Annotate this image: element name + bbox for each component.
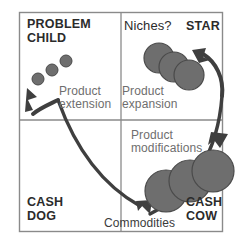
product-extension-arrowhead — [25, 88, 37, 112]
quadrant-label-niches: Niches? — [124, 19, 172, 33]
product-extension-arrow-shaft — [33, 100, 58, 114]
quadrant-label-star: STAR — [186, 20, 220, 34]
quadrant-label-problem-child: PROBLEM CHILD — [27, 18, 91, 45]
star-circle — [174, 60, 204, 90]
annotation-product-modifications: Product modifications — [131, 129, 202, 155]
bcg-matrix-diagram: PROBLEM CHILD Niches? STAR CASH DOG CASH… — [0, 0, 242, 245]
problem-child-circle — [60, 55, 72, 67]
quadrant-label-cash-dog: CASH DOG — [27, 196, 63, 223]
cash-cow-circle — [192, 150, 234, 192]
annotation-product-extension: Product extension — [59, 85, 111, 111]
lifecycle-sweep-curve-left — [58, 100, 140, 206]
annotation-commodities: Commodities — [104, 217, 175, 230]
quadrant-label-cash-cow: CASH COW — [186, 196, 222, 223]
annotation-product-expansion: Product expansion — [122, 85, 178, 111]
problem-child-circles — [32, 55, 72, 85]
problem-child-circle — [32, 73, 44, 85]
problem-child-circle — [46, 64, 58, 76]
